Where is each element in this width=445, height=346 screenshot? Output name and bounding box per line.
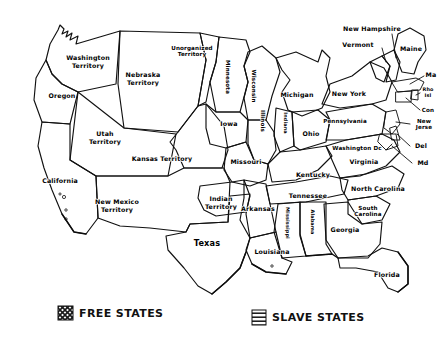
label-ohio: Ohio [303,130,320,137]
legend-free-label: FREE STATES [79,307,163,320]
map-canvas: WashingtonTerritoryOregonCaliforniaUtahT… [0,0,445,346]
label-illinois: Illinois [260,110,266,133]
label-washington-territory: WashingtonTerritory [66,54,110,69]
label-connecticut: Con [422,107,434,113]
label-new-hampshire: New Hampshire [343,25,401,33]
label-nebraska-territory: NebraskaTerritory [126,71,161,86]
label-georgia: Georgia [331,226,360,234]
label-mississippi: Mississippi [284,207,291,239]
label-california: California [42,177,78,184]
label-indiana: Indiana [283,112,289,134]
legend-slave-swatch [252,310,266,325]
label-maryland: Md [417,159,428,166]
label-missouri: Missouri [230,158,261,165]
label-kansas-territory: Kansas Territory [132,155,193,163]
label-maine: Maine [400,45,422,52]
label-texas: Texas [194,238,220,248]
label-new-jersey: NewJerse [415,118,433,131]
label-oregon: Oregon [49,92,76,100]
label-virginia: Virginia [350,158,379,166]
label-louisiana: Louisiana [254,248,289,255]
paper-background [0,0,445,346]
label-washington-dc: Washington Dc [332,145,381,152]
label-new-york: New York [332,90,367,97]
label-florida: Florida [374,271,400,278]
label-michigan: Michigan [280,91,313,99]
label-north-carolina: North Carolina [351,185,405,192]
label-new-mexico-territory: New MexicoTerritory [95,198,139,213]
legend-slave-label: SLAVE STATES [272,311,365,324]
label-alabama: Alabama [310,209,316,234]
label-pennsylvania: Pennsylvania [323,118,367,125]
label-south-carolina: SouthCarolina [354,205,381,217]
label-arkansas: Arkansas [241,205,275,212]
label-iowa: Iowa [220,120,237,127]
label-vermont: Vermont [342,41,373,48]
label-tennessee: Tennessee [289,192,327,199]
label-kentucky: Kentucky [296,171,330,179]
label-delaware: Del [415,142,427,149]
label-minnesota: Minnesota [225,60,231,94]
label-indian-territory: IndianTerritory [205,195,237,210]
historical-map: WashingtonTerritoryOregonCaliforniaUtahT… [0,0,445,346]
label-wisconsin: Wisconsin [251,69,257,102]
legend-free-swatch [58,306,73,320]
label-massachusetts: Ma [426,71,437,78]
